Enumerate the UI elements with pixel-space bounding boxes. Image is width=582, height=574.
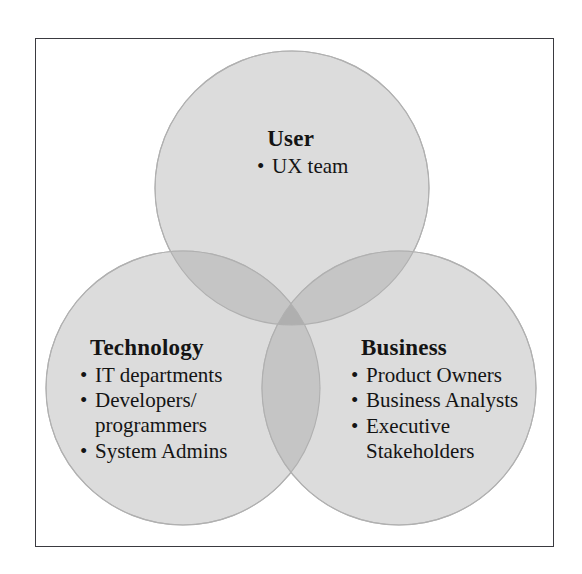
list-item-text-continuation: Stakeholders [366, 439, 518, 464]
group-business: Business •Product Owners •Business Analy… [349, 335, 518, 464]
list-item: •System Admins [78, 439, 227, 464]
list-item-text: Executive [366, 414, 450, 438]
list-item: •Developers/ programmers [78, 388, 227, 437]
list-item: •UX team [255, 154, 348, 179]
bullet-icon: • [351, 363, 358, 388]
group-technology-heading: Technology [78, 335, 227, 362]
list-item: •IT departments [78, 363, 227, 388]
bullet-icon: • [351, 388, 358, 413]
list-item-text: IT departments [95, 363, 222, 387]
bullet-icon: • [80, 439, 87, 464]
group-user-heading: User [255, 126, 348, 153]
diagram-frame [35, 38, 554, 547]
list-item: •Product Owners [349, 363, 518, 388]
venn-diagram: User •UX team Technology •IT departments… [0, 0, 582, 574]
group-technology-list: •IT departments •Developers/ programmers… [78, 363, 227, 463]
group-user: User •UX team [255, 126, 348, 179]
group-user-list: •UX team [255, 154, 348, 179]
group-business-heading: Business [349, 335, 518, 362]
list-item-text: UX team [272, 154, 348, 178]
bullet-icon: • [257, 154, 264, 179]
list-item-text: Business Analysts [366, 388, 518, 412]
list-item-text: Developers/ [95, 388, 196, 412]
bullet-icon: • [80, 388, 87, 413]
list-item-text: System Admins [95, 439, 227, 463]
list-item-text: Product Owners [366, 363, 502, 387]
list-item: •Executive Stakeholders [349, 414, 518, 463]
list-item-text-continuation: programmers [95, 413, 227, 438]
list-item: •Business Analysts [349, 388, 518, 413]
bullet-icon: • [80, 363, 87, 388]
group-business-list: •Product Owners •Business Analysts •Exec… [349, 363, 518, 463]
bullet-icon: • [351, 414, 358, 439]
group-technology: Technology •IT departments •Developers/ … [78, 335, 227, 464]
